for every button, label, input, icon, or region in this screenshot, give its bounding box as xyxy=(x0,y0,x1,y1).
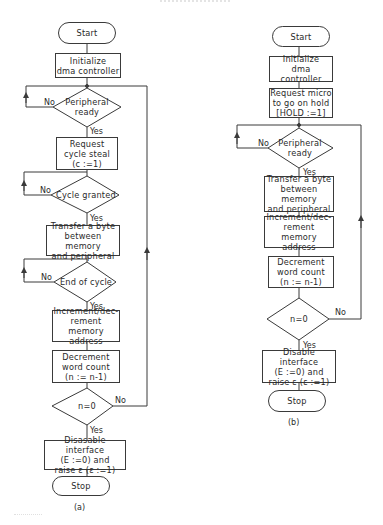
chart-a-end-of-cycle-decision: End of cycle xyxy=(56,275,116,289)
chart-a-increment-address-box: Increment/dec- rement memory address xyxy=(52,310,120,342)
chart-a-n-no-label: No xyxy=(115,396,126,405)
chart-a-initialize-box: Initialize dma controller xyxy=(55,53,121,78)
chart-a-disable-interface-box: Disasable interface (E :=0) and raise ε … xyxy=(44,440,126,470)
chart-b-increment-address-box: Increment/dec- rement memory address xyxy=(264,216,334,248)
chart-b-n-no-label: No xyxy=(335,308,346,317)
chart-b-disable-interface-box: Disable interface (E :=0) and raise ε (ε… xyxy=(262,350,336,383)
chart-a-peripheral-yes-label: Yes xyxy=(90,127,103,136)
chart-b-caption: (b) xyxy=(288,418,299,427)
chart-b-initialize-box: Initialize dma controller xyxy=(269,56,333,82)
chart-a-peripheral-no-label: No xyxy=(44,98,55,107)
chart-b-peripheral-no-label: No xyxy=(258,139,269,148)
chart-a-end-yes-label: Yes xyxy=(90,302,103,311)
chart-a-decrement-count-box: Decrement word count (n := n-1) xyxy=(52,350,120,383)
chart-a-caption: (a) xyxy=(74,503,85,512)
chart-b-stop-terminal: Stop xyxy=(268,390,326,412)
chart-b-peripheral-ready-decision: Peripheral ready xyxy=(270,133,330,163)
chart-a-cycle-yes-label: Yes xyxy=(90,214,103,223)
chart-a-request-cycle-steal-box: Request cycle steal (c :=1) xyxy=(56,137,118,170)
chart-b-request-hold-box: Request micro to go on hold [HOLD :=1] xyxy=(269,88,333,118)
chart-a-cycle-granted-decision: Cycle granted xyxy=(52,188,120,202)
chart-b-n-yes-label: Yes xyxy=(303,341,316,350)
chart-a-start-terminal: Start xyxy=(58,22,116,44)
chart-b-n-zero-decision: n=0 xyxy=(277,313,321,325)
chart-b-peripheral-yes-label: Yes xyxy=(303,168,316,177)
chart-a-n-yes-label: Yes xyxy=(90,426,103,435)
chart-b-start-terminal: Start xyxy=(272,26,330,47)
chart-a-transfer-byte-box: Transfer a byte between memory and perip… xyxy=(46,225,120,256)
chart-a-peripheral-ready-decision: Peripheral ready xyxy=(55,92,119,122)
chart-a-end-no-label: No xyxy=(41,273,52,282)
chart-a-n-zero-decision: n=0 xyxy=(65,400,109,412)
chart-a-cycle-no-label: No xyxy=(40,186,51,195)
chart-a-stop-terminal: Stop xyxy=(52,476,110,496)
chart-b-transfer-byte-box: Transfer a byte between memory and perip… xyxy=(264,176,334,212)
chart-b-decrement-count-box: Decrement word count (n := n-1) xyxy=(268,256,334,288)
